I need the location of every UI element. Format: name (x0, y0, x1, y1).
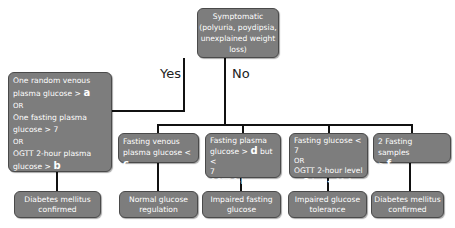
connector-yes-horizontal (112, 110, 185, 112)
outcome-2-line-1: Impaired fasting (203, 195, 280, 205)
connector-no-3 (328, 124, 330, 133)
outcome-yes-line-1: Diabetes mellitus (15, 195, 100, 205)
no-criteria-node-2: Fasting plasma glucose > d but < 7 OGTT … (205, 133, 281, 178)
no2-line-2: glucose > d but < (210, 146, 276, 167)
no4-line-2: > f (378, 158, 446, 170)
root-node-symptomatic: Symptomatic (polyuria, poydipsia, unexpl… (197, 8, 279, 58)
variable-d: d (250, 145, 257, 156)
no-label: No (232, 66, 250, 81)
outcome-impaired-tolerance: Impaired glucose tolerance (288, 191, 367, 218)
variable-b: b (53, 160, 60, 171)
yes-line-5: OGTT 2-hour plasma (13, 148, 107, 160)
variable-a: a (83, 87, 90, 98)
no-criteria-node-3: Fasting glucose < 7 OR OGTT 2-hour level… (289, 133, 368, 178)
no2-line-1: Fasting plasma (210, 136, 276, 146)
no1-line-2: plasma glucose < c (123, 147, 194, 170)
outcome-yes-diabetes: Diabetes mellitus confirmed (14, 191, 101, 218)
yes-line-2: plasma glucose > a (13, 87, 107, 100)
yes-line-6-text: glucose > (13, 162, 53, 171)
connector-no-2 (242, 124, 244, 133)
no3-line-3-prefix: > (294, 177, 303, 186)
root-line-3: unexplained weight loss) (198, 33, 278, 55)
no1-line-2-text: plasma glucose < (123, 148, 191, 157)
connector-no-1 (157, 124, 159, 133)
yes-line-6: glucose > b (13, 160, 107, 173)
outcome-1-line-1: Normal glucose (120, 195, 197, 205)
yes-criteria-node: One random venous plasma glucose > a OR … (8, 72, 112, 172)
yes-line-4: glucose > 7 (13, 124, 107, 136)
outcome-normal-glucose: Normal glucose regulation (119, 191, 198, 218)
no3-line-3: > e but < 11.1 (294, 176, 363, 187)
root-line-2: (polyuria, poydipsia, (198, 22, 278, 33)
yes-line-1: One random venous (13, 75, 107, 87)
no3-line-3-suffix: but < 11.1 (310, 177, 353, 186)
yes-or-1: OR (13, 100, 107, 112)
no2-line-2-text: glucose > (210, 147, 250, 156)
outcome-1-line-2: regulation (120, 205, 197, 215)
no4-line-2-text: > (378, 160, 387, 169)
connector-no-4 (411, 124, 413, 133)
variable-f: f (387, 158, 391, 169)
yes-or-2: OR (13, 136, 107, 148)
variable-c: c (123, 158, 129, 169)
outcome-4-line-2: confirmed (372, 205, 443, 215)
connector-root-yes (183, 58, 185, 112)
outcome-3-line-2: tolerance (289, 205, 366, 215)
outcome-impaired-fasting: Impaired fasting glucose (202, 191, 281, 218)
no1-line-1: Fasting venous (123, 136, 194, 147)
yes-label: Yes (160, 66, 181, 81)
variable-e: e (303, 175, 310, 186)
connector-root-no (224, 58, 226, 126)
connector-yes-outcome (56, 172, 58, 191)
outcome-4-line-1: Diabetes mellitus (372, 195, 443, 205)
yes-line-2-text: plasma glucose > (13, 89, 83, 98)
no-criteria-node-4: 2 Fasting samples > f (373, 133, 451, 163)
no-criteria-node-1: Fasting venous plasma glucose < c (118, 133, 199, 163)
no2-line-3: 7 (210, 167, 276, 177)
outcome-2-line-2: glucose (203, 205, 280, 215)
connector-no-horizontal (157, 124, 413, 126)
outcome-3-line-1: Impaired glucose (289, 195, 366, 205)
no4-line-1: 2 Fasting samples (378, 136, 446, 158)
outcome-diabetes-confirmed: Diabetes mellitus confirmed (371, 191, 444, 218)
outcome-yes-line-2: confirmed (15, 205, 100, 215)
no3-line-1: Fasting glucose < 7 (294, 136, 363, 156)
yes-line-3: One fasting plasma (13, 112, 107, 124)
no3-or: OR (294, 156, 363, 166)
root-line-1: Symptomatic (198, 11, 278, 22)
